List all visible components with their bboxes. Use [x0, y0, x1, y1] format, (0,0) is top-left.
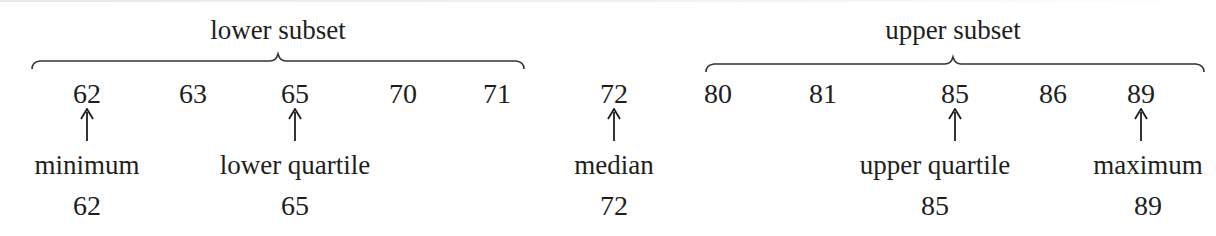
top-edge-shadow — [0, 0, 1216, 2]
data-value: 86 — [1039, 80, 1067, 108]
upper-subset-brace — [706, 57, 1204, 72]
data-value: 85 — [941, 80, 969, 108]
maximum-value: 89 — [1134, 192, 1162, 220]
upper-quartile-label: upper quartile — [860, 152, 1011, 179]
median-label: median — [574, 152, 653, 179]
lower-quartile-arrow-icon — [288, 108, 302, 142]
minimum-value: 62 — [73, 192, 101, 220]
maximum-arrow-icon — [1134, 108, 1148, 142]
data-value: 80 — [704, 80, 732, 108]
median-arrow-icon — [607, 108, 621, 142]
maximum-label: maximum — [1093, 152, 1203, 179]
median-value: 72 — [600, 192, 628, 220]
minimum-label: minimum — [34, 152, 139, 179]
upper-quartile-value: 85 — [921, 192, 949, 220]
lower-quartile-label: lower quartile — [220, 152, 371, 179]
data-value: 71 — [483, 80, 511, 108]
upper-quartile-arrow-icon — [948, 108, 962, 142]
data-value: 70 — [389, 80, 417, 108]
data-value: 65 — [281, 80, 309, 108]
lower-quartile-value: 65 — [281, 192, 309, 220]
data-value: 89 — [1127, 80, 1155, 108]
minimum-arrow-icon — [80, 108, 94, 142]
lower-subset-title: lower subset — [210, 17, 346, 44]
data-value: 81 — [809, 80, 837, 108]
lower-subset-brace — [32, 54, 524, 69]
data-value: 63 — [179, 80, 207, 108]
data-value: 62 — [73, 80, 101, 108]
data-value: 72 — [600, 80, 628, 108]
upper-subset-title: upper subset — [885, 17, 1021, 44]
